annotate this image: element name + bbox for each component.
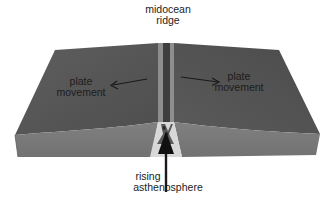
ridge-right-strip	[170, 43, 174, 123]
right-plate-label-line2: movement	[204, 82, 274, 93]
midocean-ridge-diagram	[0, 0, 336, 200]
ridge-label-line2: ridge	[129, 15, 207, 26]
midocean-ridge-label: midocean ridge	[129, 4, 207, 26]
ridge-left-strip	[158, 43, 163, 123]
left-plate-movement-label: plate movement	[46, 76, 116, 98]
ridge-center-trough	[163, 43, 170, 123]
left-plate-label-line2: movement	[46, 87, 116, 98]
right-plate-movement-label: plate movement	[204, 71, 274, 93]
rising-label-line2: asthenosphere	[115, 182, 221, 193]
rising-asthenosphere-label: rising asthenosphere	[115, 171, 221, 193]
